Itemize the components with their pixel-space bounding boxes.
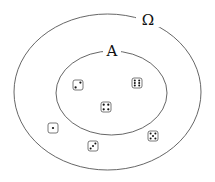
- venn-diagram: Ω A: [0, 0, 215, 182]
- subset-a: [56, 51, 167, 135]
- die-face-4: [101, 102, 111, 112]
- universe-set-omega: [14, 14, 201, 170]
- die-face-3: [88, 141, 98, 151]
- die-face-1: [48, 123, 58, 133]
- die-face-6: [132, 78, 142, 88]
- die-face-5: [148, 131, 158, 141]
- omega-label: Ω: [142, 11, 154, 29]
- a-label: A: [106, 42, 118, 60]
- die-face-2: [73, 80, 83, 90]
